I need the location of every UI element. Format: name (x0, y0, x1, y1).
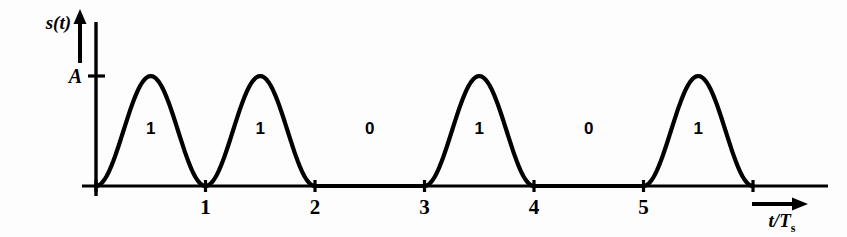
x-axis-tick-label: 4 (529, 197, 540, 218)
bit-label: 1 (256, 120, 265, 137)
bit-label: 0 (365, 120, 374, 137)
bit-label: 1 (694, 120, 703, 137)
x-axis-tick-label: 5 (638, 197, 649, 218)
x-axis-arrow-icon (752, 198, 808, 211)
x-axis-label-sub: s (791, 221, 796, 235)
bit-label: 1 (475, 120, 484, 137)
signal-waveform-path (96, 76, 753, 186)
x-axis-label: t/Ts (769, 211, 796, 234)
bit-label: 0 (584, 120, 593, 137)
signal-waveform-figure: s(t) A 12345 110101 t/Ts (0, 0, 847, 237)
amplitude-label: A (69, 66, 82, 86)
x-axis-tick-label: 1 (200, 197, 211, 218)
bit-label: 1 (146, 120, 155, 137)
x-axis-tick-label: 3 (419, 197, 430, 218)
y-axis-arrow-icon (74, 9, 87, 63)
y-axis-label: s(t) (46, 13, 71, 32)
x-axis-label-main: t/T (769, 210, 791, 231)
x-axis-tick-label: 2 (310, 197, 321, 218)
